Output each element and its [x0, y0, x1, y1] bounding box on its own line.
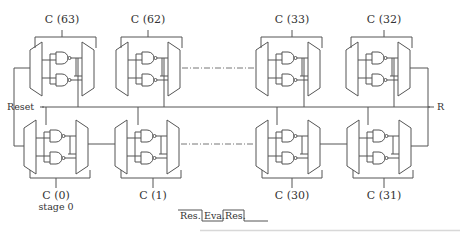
cell-c31: C (31): [347, 120, 413, 202]
cell-label: C (33): [275, 13, 310, 26]
cell-label: C (32): [367, 13, 402, 26]
cell-label: C (31): [367, 189, 402, 202]
phase-reset-2: Res.: [225, 210, 246, 221]
cell-c63: C (63): [30, 13, 96, 107]
reset-label: Reset: [7, 101, 34, 112]
timing-waveform: Res. Eva. Res.: [178, 210, 268, 221]
phase-evaluate: Eva.: [204, 210, 225, 221]
cell-label: C (1): [139, 189, 167, 202]
cell-c33: C (33): [256, 13, 322, 107]
cell-label: C (63): [45, 13, 80, 26]
cell-c1: C (1): [115, 120, 181, 202]
cell-label: C (62): [131, 13, 166, 26]
cell-c30: C (30): [256, 120, 322, 202]
ring-oscillator-diagram: C (63) C (62) C (33) C (32) Reset R: [0, 0, 460, 232]
cell-c32: C (32): [346, 13, 412, 107]
phase-reset-1: Res.: [180, 210, 201, 221]
cell-c62: C (62): [116, 13, 182, 107]
cell-c0: C (0) stage 0: [24, 120, 90, 212]
r-label: R: [437, 101, 445, 112]
cell-label: C (30): [275, 189, 310, 202]
stage-label: stage 0: [38, 201, 73, 212]
